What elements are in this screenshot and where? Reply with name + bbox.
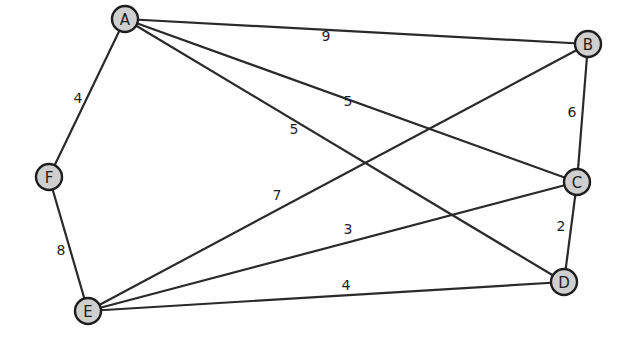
edge-f-e — [49, 177, 88, 311]
edge-a-b — [125, 19, 588, 44]
node-label: E — [83, 303, 92, 321]
edge-weight-d-e: 4 — [342, 277, 351, 293]
node-label: F — [45, 169, 54, 187]
node-e: E — [75, 298, 101, 324]
edge-weight-c-e: 3 — [344, 221, 353, 237]
edge-weight-c-d: 2 — [557, 218, 566, 234]
nodes-layer: ABCDEF — [36, 6, 601, 324]
edge-b-e — [88, 44, 588, 311]
node-label: B — [583, 36, 593, 54]
edge-a-f — [49, 19, 125, 177]
edge-c-d — [564, 182, 577, 282]
edge-weight-f-e: 8 — [57, 242, 66, 258]
node-c: C — [564, 169, 590, 195]
weights-layer: 9554672348 — [57, 28, 577, 293]
node-f: F — [36, 164, 62, 190]
edge-b-c — [577, 44, 588, 182]
node-label: C — [572, 174, 582, 192]
edge-weight-a-c: 5 — [344, 93, 353, 109]
edge-weight-a-b: 9 — [322, 28, 331, 44]
edge-weight-a-f: 4 — [74, 90, 83, 106]
node-label: D — [558, 274, 570, 292]
node-d: D — [551, 269, 577, 295]
edge-weight-b-e: 7 — [273, 187, 282, 203]
edge-weight-b-c: 6 — [568, 104, 577, 120]
edges-layer — [49, 19, 588, 311]
node-a: A — [112, 6, 138, 32]
edge-d-e — [88, 282, 564, 311]
node-b: B — [575, 31, 601, 57]
node-label: A — [120, 11, 131, 29]
weighted-graph: 9554672348 ABCDEF — [0, 0, 631, 342]
edge-weight-a-d: 5 — [290, 121, 299, 137]
